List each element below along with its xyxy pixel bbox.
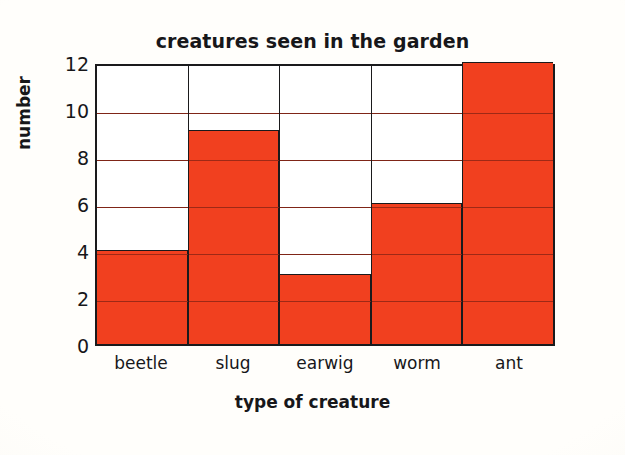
x-axis-label: type of creature — [0, 392, 625, 412]
bar-slug — [188, 130, 280, 344]
y-tick-2: 2 — [55, 290, 89, 309]
x-tick-beetle: beetle — [95, 350, 187, 376]
bar-earwig — [279, 274, 371, 345]
chart-title: creatures seen in the garden — [0, 30, 625, 52]
x-tick-worm: worm — [371, 350, 463, 376]
bar-chart-figure: creatures seen in the garden number 1210… — [0, 0, 625, 455]
x-tick-slug: slug — [187, 350, 279, 376]
y-tick-4: 4 — [55, 243, 89, 262]
x-tick-earwig: earwig — [279, 350, 371, 376]
bar-ant — [462, 62, 553, 344]
bar-worm — [371, 203, 463, 344]
y-axis-tick-labels: 121086420 — [55, 64, 89, 346]
y-tick-12: 12 — [55, 55, 89, 74]
y-axis-label: number — [14, 76, 34, 150]
plot-area — [95, 64, 555, 346]
y-tick-10: 10 — [55, 102, 89, 121]
bar-beetle — [97, 250, 188, 344]
y-tick-8: 8 — [55, 149, 89, 168]
y-tick-0: 0 — [55, 337, 89, 356]
x-tick-ant: ant — [463, 350, 555, 376]
x-axis-tick-labels: beetleslugearwigwormant — [95, 350, 555, 376]
bars-group — [97, 66, 553, 344]
y-tick-6: 6 — [55, 196, 89, 215]
